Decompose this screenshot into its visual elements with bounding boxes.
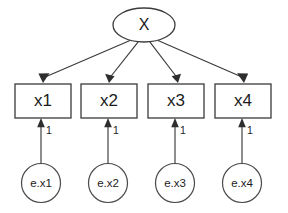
error-node-ex3-label: e.x3 <box>164 177 186 189</box>
loading-path-x4 <box>158 41 248 84</box>
error-node-ex2[interactable]: e.x2 <box>89 164 128 203</box>
loading-path-x1-line <box>44 41 130 78</box>
error-path-x3-coefficient-label: 1 <box>180 124 186 136</box>
indicator-node-x3[interactable]: x3 <box>148 84 204 118</box>
error-path-x1-arrowhead <box>37 118 45 127</box>
indicator-node-x2[interactable]: x2 <box>81 84 137 118</box>
error-node-ex4[interactable]: e.x4 <box>223 164 262 203</box>
error-node-ex1-label: e.x1 <box>30 177 52 189</box>
error-path-x4 <box>238 118 246 163</box>
indicator-node-x1[interactable]: x1 <box>15 84 71 118</box>
error-path-x2 <box>104 118 112 163</box>
loading-path-x2-arrowhead <box>105 74 115 83</box>
loading-path-x4-arrowhead <box>237 73 248 83</box>
indicator-node-x4-label: x4 <box>234 91 252 110</box>
indicator-node-x2-label: x2 <box>100 91 118 110</box>
loading-path-x1 <box>38 41 130 84</box>
error-path-x4-arrowhead <box>238 118 246 127</box>
latent-node-X[interactable]: X <box>113 8 175 42</box>
loading-path-x2 <box>105 42 138 83</box>
indicator-node-x3-label: x3 <box>167 91 185 110</box>
error-node-ex4-label: e.x4 <box>231 177 253 189</box>
loading-path-x3-arrowhead <box>172 74 181 83</box>
loading-path-x4-line <box>158 41 243 78</box>
error-path-x1-coefficient-label: 1 <box>46 124 52 136</box>
indicator-node-x1-label: x1 <box>34 91 52 110</box>
sem-path-diagram: X x1 x2 x3 x4 e.x1 e.x2 e.x <box>0 0 288 213</box>
diagram-canvas: X x1 x2 x3 x4 e.x1 e.x2 e.x <box>0 0 288 213</box>
error-path-x3-arrowhead <box>171 118 179 127</box>
latent-node-X-label: X <box>139 16 150 33</box>
error-path-x3 <box>171 118 179 163</box>
error-node-ex2-label: e.x2 <box>97 177 119 189</box>
error-path-x2-arrowhead <box>104 118 112 127</box>
error-path-x2-coefficient-label: 1 <box>113 124 119 136</box>
error-path-x4-coefficient-label: 1 <box>247 124 253 136</box>
indicator-node-x4[interactable]: x4 <box>215 84 271 118</box>
error-node-ex1[interactable]: e.x1 <box>22 164 61 203</box>
error-path-x1 <box>37 118 45 163</box>
error-node-ex3[interactable]: e.x3 <box>156 164 195 203</box>
loading-path-x1-arrowhead <box>38 73 49 83</box>
